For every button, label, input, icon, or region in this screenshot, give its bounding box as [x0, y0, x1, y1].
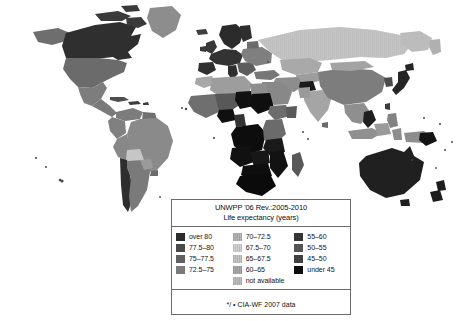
legend-label: under 45 [307, 266, 334, 274]
legend-swatch [294, 266, 303, 274]
legend-entry: 70–72.5 [233, 231, 295, 242]
region-pakistan [298, 87, 310, 98]
legend-swatch [294, 244, 303, 252]
region-taiwan [385, 103, 390, 110]
world-map-figure: UNWPP '06 Rev.:2005-2010 Life expectancy… [0, 0, 466, 321]
legend-entry-spacer [176, 275, 233, 286]
legend-label: 50–55 [307, 244, 326, 252]
legend-footer-text: */ • CIA-WF 2007 data [227, 301, 296, 308]
legend-label: 65–67.5 [246, 255, 271, 263]
legend-label: 77.5–80 [189, 244, 214, 252]
legend-entry: 77.5–80 [176, 242, 233, 253]
region-tasmania [400, 199, 410, 206]
legend-label: 70–72.5 [246, 233, 271, 241]
region-cameroon [234, 114, 246, 127]
legend-entry: 67.5–70 [233, 242, 295, 253]
legend-swatch [176, 233, 185, 241]
legend-title-source: UNWPP '06 Rev.:2005-2010 [174, 203, 348, 213]
legend-entry: 65–67.5 [233, 253, 295, 264]
legend-title-block: UNWPP '06 Rev.:2005-2010 Life expectancy… [172, 200, 350, 227]
legend-swatch [294, 255, 303, 263]
legend-swatch [233, 277, 242, 285]
map-legend: UNWPP '06 Rev.:2005-2010 Life expectancy… [171, 199, 351, 315]
legend-entry: 55–60 [294, 231, 347, 242]
legend-entry: 45–50 [294, 253, 347, 264]
legend-entry: over 80 [176, 231, 233, 242]
legend-label: 75–77.5 [189, 255, 214, 263]
region-somalia [286, 106, 297, 118]
legend-entry: 75–77.5 [176, 253, 233, 264]
legend-swatch [233, 255, 242, 263]
legend-entry: 72.5–75 [176, 264, 233, 275]
region-sri-lanka [322, 122, 328, 128]
legend-label: 45–50 [307, 255, 326, 263]
region-baltics [247, 41, 259, 49]
legend-column-right: 55–60 50–55 45–50 under 45 [294, 231, 347, 286]
legend-body: over 80 77.5–80 75–77.5 72.5–75 [172, 227, 350, 290]
legend-label: 67.5–70 [246, 244, 271, 252]
legend-label: over 80 [189, 233, 212, 241]
legend-swatch [176, 244, 185, 252]
legend-swatch [294, 233, 303, 241]
legend-swatch [233, 266, 242, 274]
legend-title-measure: Life expectancy (years) [174, 213, 348, 223]
legend-swatch [233, 244, 242, 252]
legend-column-left: over 80 77.5–80 75–77.5 72.5–75 [176, 231, 233, 286]
legend-label: not available [246, 277, 285, 285]
legend-entry: 60–65 [233, 264, 295, 275]
legend-label: 55–60 [307, 233, 326, 241]
legend-column-middle: 70–72.5 67.5–70 65–67.5 60–65 not availa… [233, 231, 295, 286]
legend-footer: */ • CIA-WF 2007 data [172, 290, 350, 314]
legend-swatch [176, 255, 185, 263]
region-ireland [200, 46, 206, 52]
legend-swatch [233, 233, 242, 241]
legend-entry: 50–55 [294, 242, 347, 253]
legend-label: 60–65 [246, 266, 265, 274]
legend-entry: under 45 [294, 264, 347, 275]
region-iceland [196, 29, 208, 35]
legend-entry: not available [233, 275, 295, 286]
legend-entry-spacer [294, 275, 347, 286]
legend-label: 72.5–75 [189, 266, 214, 274]
legend-swatch [176, 266, 185, 274]
